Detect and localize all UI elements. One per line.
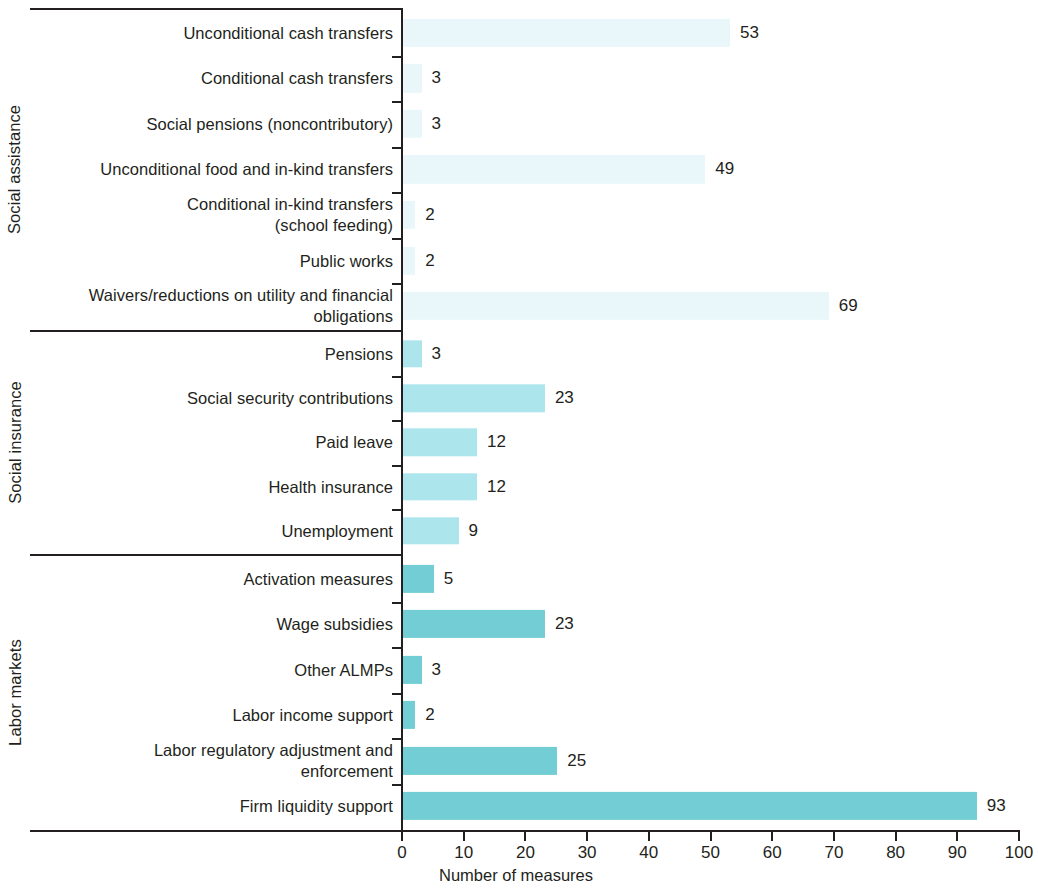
bar-row: Unemployment9 [30, 509, 1032, 553]
x-axis-tick-label: 30 [557, 843, 617, 863]
bar [403, 429, 477, 456]
bar-row: Unconditional food and in-kind transfers… [30, 147, 1032, 193]
y-axis-tick [392, 738, 401, 740]
bar-row: Other ALMPs3 [30, 647, 1032, 693]
bar-row: Labor income support2 [30, 693, 1032, 739]
bar-row-label: Public works [30, 250, 393, 271]
bar-row: Conditional in-kind transfers(school fee… [30, 192, 1032, 238]
bar-value-label: 49 [715, 159, 734, 179]
x-axis-tick [463, 832, 465, 841]
y-axis-tick [392, 602, 401, 604]
x-axis-tick-label: 0 [372, 843, 432, 863]
bar [403, 292, 829, 320]
x-axis-tick [586, 832, 588, 841]
bar-value-label: 3 [432, 344, 441, 364]
y-axis-tick [392, 56, 401, 58]
bar [403, 656, 422, 684]
y-axis-tick [392, 693, 401, 695]
x-axis-tick-label: 60 [742, 843, 802, 863]
group-title-social-assistance: Social assistance [0, 8, 30, 330]
x-axis-tick-label: 40 [619, 843, 679, 863]
x-axis-tick-label: 50 [681, 843, 741, 863]
x-axis-tick [710, 832, 712, 841]
bar-row: Health insurance12 [30, 465, 1032, 509]
bar-row: Activation measures5 [30, 556, 1032, 602]
x-axis-tick-label: 70 [804, 843, 864, 863]
bar [403, 701, 415, 729]
group-title-social-insurance: Social insurance [0, 330, 30, 554]
bar-row-label: Unconditional food and in-kind transfers [30, 159, 393, 180]
bar-value-label: 23 [555, 614, 574, 634]
bar-row: Waivers/reductions on utility and financ… [30, 283, 1032, 329]
bar-row-label: Other ALMPs [30, 659, 393, 680]
x-axis-tick-label: 20 [495, 843, 555, 863]
bar [403, 385, 545, 412]
y-axis-tick [392, 509, 401, 511]
bar-row-label: Social pensions (noncontributory) [30, 113, 393, 134]
bar [403, 247, 415, 275]
bar-row: Pensions3 [30, 332, 1032, 376]
bar-row: Conditional cash transfers3 [30, 56, 1032, 102]
x-axis-title: Number of measures [0, 866, 1032, 885]
bar [403, 64, 422, 92]
bar-value-label: 93 [987, 796, 1006, 816]
bar [403, 517, 459, 544]
y-axis-tick [392, 376, 401, 378]
x-axis-tick [833, 832, 835, 841]
bar [403, 473, 477, 500]
bar-row-label: Pensions [30, 344, 393, 365]
bar-value-label: 3 [432, 68, 441, 88]
bar-row-label: Health insurance [30, 476, 393, 497]
bar-row-label: Waivers/reductions on utility and financ… [30, 285, 393, 327]
group-title-label: Labor markets [6, 639, 25, 746]
bar [403, 747, 557, 775]
bar-row-label: Social security contributions [30, 388, 393, 409]
bar-value-label: 9 [469, 521, 478, 541]
bar [403, 565, 434, 593]
y-axis-tick [392, 647, 401, 649]
x-axis-tick-label: 100 [989, 843, 1038, 863]
y-axis-tick [392, 147, 401, 149]
y-axis-tick [392, 784, 401, 786]
x-axis-tick-label: 10 [434, 843, 494, 863]
bar-value-label: 53 [740, 23, 759, 43]
bar-row: Social pensions (noncontributory)3 [30, 101, 1032, 147]
x-axis-tick [524, 832, 526, 841]
bar [403, 155, 705, 183]
bar-row-label: Firm liquidity support [30, 796, 393, 817]
bar-row: Public works2 [30, 238, 1032, 284]
bar-row-label: Conditional cash transfers [30, 68, 393, 89]
y-axis-tick [392, 192, 401, 194]
x-axis-tick-label: 80 [866, 843, 926, 863]
bar [403, 792, 977, 820]
y-axis-tick [392, 283, 401, 285]
bar-row-label: Activation measures [30, 568, 393, 589]
x-axis-tick [771, 832, 773, 841]
x-axis-tick [648, 832, 650, 841]
x-axis-tick [956, 832, 958, 841]
x-axis-tick [401, 832, 403, 841]
bar-value-label: 3 [432, 114, 441, 134]
bar-value-label: 5 [444, 569, 453, 589]
bar-row: Firm liquidity support93 [30, 784, 1032, 830]
bar-value-label: 25 [567, 751, 586, 771]
bar-row: Wage subsidies23 [30, 602, 1032, 648]
bar [403, 19, 730, 47]
bar-value-label: 23 [555, 388, 574, 408]
x-axis-tick [895, 832, 897, 841]
bar [403, 201, 415, 229]
bar-value-label: 2 [425, 251, 434, 271]
bar-value-label: 2 [425, 205, 434, 225]
bar-row-label: Unemployment [30, 520, 393, 541]
bar-value-label: 12 [487, 477, 506, 497]
bar-row-label: Paid leave [30, 432, 393, 453]
y-axis-tick [392, 238, 401, 240]
y-axis-tick [392, 420, 401, 422]
bar-row-label: Conditional in-kind transfers(school fee… [30, 194, 393, 236]
bar-row: Paid leave12 [30, 420, 1032, 464]
bar-row-label: Unconditional cash transfers [30, 22, 393, 43]
bar-row: Social security contributions23 [30, 376, 1032, 420]
bar [403, 110, 422, 138]
group-title-label: Social assistance [6, 104, 25, 233]
